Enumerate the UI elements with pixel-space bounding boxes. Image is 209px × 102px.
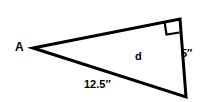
side-label-vertical: 5″ xyxy=(181,48,192,59)
side-label-diagonal: d xyxy=(135,51,142,62)
vertex-label-a: A xyxy=(15,41,24,53)
right-angle-marker-icon xyxy=(165,22,180,35)
geometry-figure: A 12.5″ 5″ d xyxy=(0,0,209,102)
side-label-hypotenuse: 12.5″ xyxy=(84,79,111,90)
